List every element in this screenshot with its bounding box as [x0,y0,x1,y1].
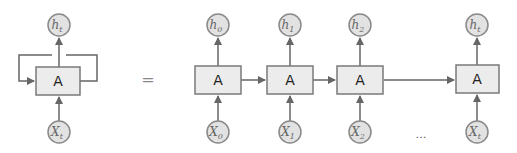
equals-sign: = [141,70,154,89]
cell-label: A [285,72,295,88]
cell-label: A [472,71,482,87]
rnn-diagram: A ht Xt = A h0 X0 A h1 [0,0,517,153]
ellipsis: … [416,128,427,141]
cell-label: A [53,73,63,89]
cell-label: A [213,72,223,88]
rolled-rnn: A ht Xt [19,14,97,143]
timestep-0: A h0 X0 [195,14,241,143]
timestep-1: A h1 X1 [267,14,313,143]
unrolled-rnn: A h0 X0 A h1 X1 A h2 X2 [195,14,499,143]
timestep-2: A h2 X2 [337,14,383,143]
cell-label: A [355,72,365,88]
timestep-t: A ht Xt [456,14,499,143]
